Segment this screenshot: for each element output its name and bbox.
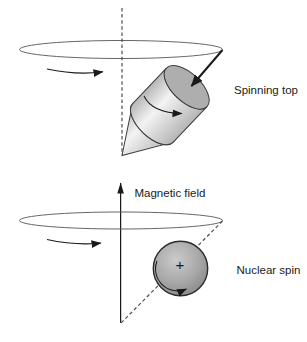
- spinning-top-label: Spinning top: [234, 84, 298, 96]
- precession-diagram: Spinning top Magnetic field + Nuclear sp…: [0, 0, 307, 342]
- precession-orbit-ellipse-top: [20, 41, 223, 59]
- precession-direction-arrow-bottom: [47, 240, 101, 244]
- magnetic-field-label: Magnetic field: [135, 187, 206, 199]
- precession-direction-arrow-top: [47, 69, 103, 73]
- nuclear-spin-panel: Magnetic field + Nuclear spin: [20, 183, 301, 323]
- nuclear-spin-label: Nuclear spin: [237, 264, 301, 276]
- spinning-top-panel: Spinning top: [20, 8, 298, 175]
- figure-canvas: Spinning top Magnetic field + Nuclear sp…: [0, 0, 307, 342]
- nucleus-charge-symbol: +: [176, 256, 185, 273]
